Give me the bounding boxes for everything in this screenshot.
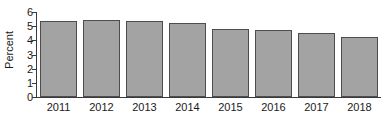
- x-tick-label: 2016: [252, 100, 295, 114]
- x-tick-label: 2013: [123, 100, 166, 114]
- y-axis-tick-labels: 6543210: [18, 12, 33, 97]
- bar: [83, 20, 121, 97]
- plot-area: [37, 12, 381, 97]
- bar: [255, 30, 293, 97]
- bar: [341, 37, 379, 97]
- y-tick-label: 1: [18, 77, 33, 88]
- y-tick-mark: [32, 12, 36, 13]
- x-axis-line: [36, 97, 381, 98]
- y-tick-mark: [32, 26, 36, 27]
- x-tick-label: 2015: [209, 100, 252, 114]
- y-tick-mark: [32, 69, 36, 70]
- y-tick-mark: [32, 97, 36, 98]
- bar-chart: Percent 6543210 201120122013201420152016…: [0, 0, 385, 124]
- bar: [40, 21, 78, 97]
- y-tick-label: 4: [18, 35, 33, 46]
- x-axis-tick-labels: 20112012201320142015201620172018: [37, 100, 381, 120]
- bar: [126, 21, 164, 97]
- bar: [169, 23, 207, 97]
- bar: [212, 29, 250, 97]
- bar: [298, 33, 336, 97]
- y-tick-label: 0: [18, 92, 33, 103]
- x-tick-label: 2017: [295, 100, 338, 114]
- x-tick-label: 2018: [338, 100, 381, 114]
- y-tick-label: 6: [18, 7, 33, 18]
- y-axis-label: Percent: [0, 0, 18, 100]
- y-axis-label-text: Percent: [3, 31, 15, 69]
- x-tick-label: 2011: [37, 100, 80, 114]
- y-tick-mark: [32, 83, 36, 84]
- x-tick-label: 2012: [80, 100, 123, 114]
- y-tick-mark: [32, 55, 36, 56]
- y-tick-mark: [32, 40, 36, 41]
- y-tick-label: 2: [18, 63, 33, 74]
- y-tick-label: 5: [18, 21, 33, 32]
- y-tick-label: 3: [18, 49, 33, 60]
- x-tick-label: 2014: [166, 100, 209, 114]
